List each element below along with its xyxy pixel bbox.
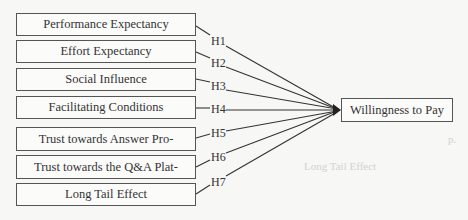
construct-trust-answer-provider: Trust towards Answer Pro- bbox=[16, 127, 196, 151]
hypothesis-label-h2: H2 bbox=[211, 57, 226, 69]
construct-long-tail-effect: Long Tail Effect bbox=[16, 183, 196, 206]
construct-label: Trust towards Answer Pro- bbox=[39, 132, 174, 147]
construct-effort-expectancy: Effort Expectancy bbox=[16, 40, 196, 63]
construct-trust-qa-platform: Trust towards the Q&A Plat- bbox=[16, 155, 196, 179]
arrowhead-icon bbox=[333, 104, 341, 116]
construct-label: Social Influence bbox=[65, 72, 147, 87]
construct-willingness-to-pay: Willingness to Pay bbox=[341, 98, 453, 122]
construct-label: Willingness to Pay bbox=[350, 103, 444, 118]
construct-social-influence: Social Influence bbox=[16, 68, 196, 91]
construct-label: Facilitating Conditions bbox=[49, 100, 164, 115]
hypothesis-label-h4: H4 bbox=[211, 103, 226, 115]
construct-facilitating-conditions: Facilitating Conditions bbox=[16, 96, 196, 119]
hypothesis-label-h6: H6 bbox=[211, 151, 226, 163]
construct-label: Trust towards the Q&A Plat- bbox=[34, 160, 178, 175]
hypothesis-label-h1: H1 bbox=[211, 35, 226, 47]
hypothesis-label-h7: H7 bbox=[211, 176, 226, 188]
construct-performance-expectancy: Performance Expectancy bbox=[16, 13, 196, 36]
hypothesis-label-h3: H3 bbox=[211, 80, 226, 92]
hypothesis-label-h5: H5 bbox=[211, 127, 226, 139]
construct-label: Effort Expectancy bbox=[60, 44, 151, 59]
construct-label: Performance Expectancy bbox=[43, 17, 168, 32]
construct-label: Long Tail Effect bbox=[65, 187, 147, 202]
